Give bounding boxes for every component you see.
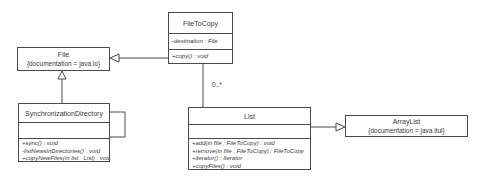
- methods-compartment: +add(in file : FileToCopy) : void +remov…: [189, 138, 310, 169]
- self-association-line: [110, 112, 125, 137]
- class-name-list: List: [189, 108, 310, 124]
- generalization-list-to-arraylist: [311, 123, 345, 131]
- class-annotation-arraylist: {documentation = java.itul}: [368, 126, 444, 135]
- class-file: File {documentation = java.io}: [17, 47, 110, 71]
- hollow-triangle-icon: [58, 71, 66, 79]
- class-attribute: -destination : File: [169, 38, 218, 46]
- class-name-file: File: [58, 50, 69, 59]
- generalization-syncdir-to-file: [58, 71, 66, 103]
- uml-class-diagram: 0..* FileToCopy -destination : File +cop…: [0, 0, 485, 181]
- class-filetocopy: FileToCopy -destination : File +copy() :…: [168, 12, 233, 64]
- hollow-triangle-icon: [336, 123, 345, 131]
- attributes-compartment: -destination : File: [169, 33, 232, 49]
- class-method: +sync() : void: [19, 140, 109, 148]
- class-method: +add(in file : FileToCopy) : void: [189, 140, 310, 148]
- class-method: -listNewsInDirectories() : void: [19, 148, 109, 156]
- hollow-triangle-icon: [110, 54, 119, 62]
- class-method: +remove(in file : FileToCopy) : FileToCo…: [189, 148, 310, 156]
- class-method: +copy() : void: [169, 53, 208, 61]
- multiplicity-label: 0..*: [212, 81, 222, 88]
- methods-compartment: +sync() : void -listNewsInDirectories() …: [19, 138, 109, 161]
- class-synchronizationdirectory: SynchronizationDirectory +sync() : void …: [18, 103, 110, 162]
- class-annotation-file: {documentation = java.io}: [27, 59, 100, 68]
- class-method: +iterator() : Iterator: [189, 155, 310, 163]
- self-association-syncdir: [110, 112, 125, 137]
- attributes-compartment: [19, 122, 109, 138]
- class-name-arraylist: ArrayList: [393, 117, 421, 126]
- generalization-filetocopy-to-file: [110, 54, 168, 62]
- methods-compartment: +copy() : void: [169, 49, 232, 63]
- attributes-compartment: [189, 124, 310, 138]
- class-method: +copyFiles() : void: [189, 163, 310, 170]
- class-name-synchronizationdirectory: SynchronizationDirectory: [19, 104, 109, 122]
- class-list: List +add(in file : FileToCopy) : void +…: [188, 107, 311, 170]
- class-method: +copyNewFiles(in list : List) : void: [19, 155, 109, 161]
- class-name-filetocopy: FileToCopy: [169, 13, 232, 33]
- class-arraylist: ArrayList {documentation = java.itul}: [345, 115, 468, 137]
